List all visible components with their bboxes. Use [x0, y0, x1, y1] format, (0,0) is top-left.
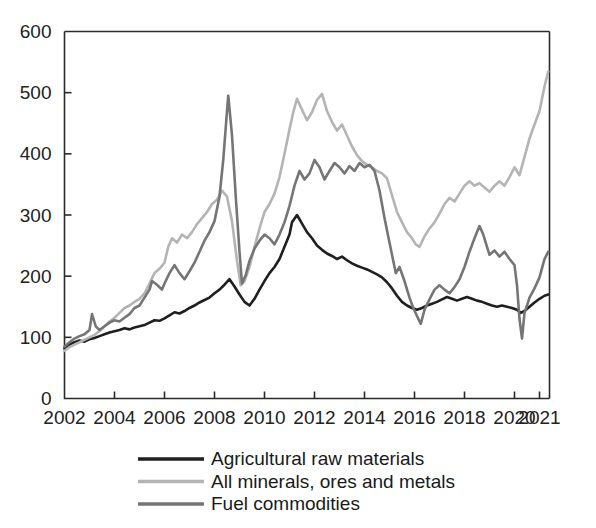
- x-axis-tick-marks: [115, 392, 540, 399]
- x-tick-label: 2008: [193, 407, 235, 428]
- chart-canvas: 0100200300400500600 20022004200620082010…: [0, 0, 596, 528]
- x-axis-tick-labels: 2002200420062008201020122014201620182020…: [43, 407, 560, 428]
- x-tick-label: 2014: [343, 407, 386, 428]
- series-line: [65, 71, 549, 351]
- legend-label: All minerals, ores and metals: [211, 471, 455, 492]
- y-tick-label: 400: [20, 143, 52, 164]
- x-tick-label: 2018: [443, 407, 485, 428]
- y-axis-tick-labels: 0100200300400500600: [20, 21, 52, 409]
- y-tick-label: 300: [20, 205, 52, 226]
- x-tick-label: 2002: [43, 407, 85, 428]
- x-tick-label: 2010: [243, 407, 285, 428]
- y-tick-label: 600: [20, 21, 52, 42]
- legend-label: Fuel commodities: [211, 493, 360, 514]
- x-tick-label: 2004: [93, 407, 136, 428]
- y-tick-label: 200: [20, 266, 52, 287]
- chart-legend: Agricultural raw materialsAll minerals, …: [138, 448, 455, 514]
- series-line: [65, 96, 549, 347]
- x-tick-label: 2016: [393, 407, 435, 428]
- y-axis-tick-marks: [65, 93, 72, 338]
- y-tick-label: 100: [20, 327, 52, 348]
- commodity-price-index-chart: 0100200300400500600 20022004200620082010…: [0, 0, 596, 528]
- x-tick-label: 2006: [143, 407, 185, 428]
- plot-axis-frame: [65, 32, 550, 399]
- data-series-group: [65, 71, 549, 351]
- x-tick-label: 2021: [518, 407, 560, 428]
- x-tick-label: 2012: [293, 407, 335, 428]
- y-tick-label: 500: [20, 82, 52, 103]
- legend-label: Agricultural raw materials: [211, 448, 424, 469]
